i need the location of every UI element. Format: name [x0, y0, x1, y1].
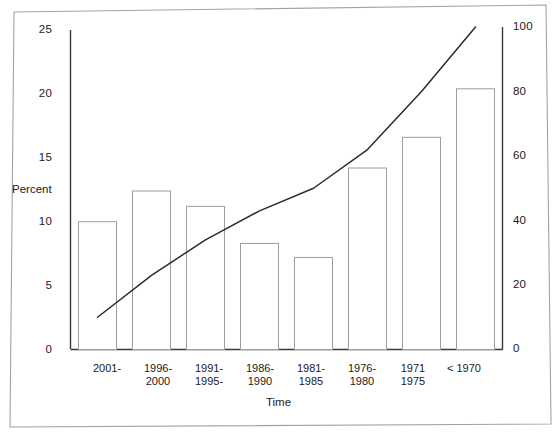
y-tick-right-20: 20: [513, 278, 526, 290]
y-tick-left-10: 10: [24, 215, 52, 227]
y-tick-left-20: 20: [24, 87, 52, 99]
y-tick-right-60: 60: [513, 149, 526, 161]
y-tick-left-25: 25: [24, 23, 52, 35]
y-axis-title: Percent: [12, 183, 52, 195]
bar-2001: [79, 222, 117, 350]
bar-1971-1975: [403, 137, 441, 349]
x-category-label: < 1970: [434, 362, 494, 375]
y-tick-left-5: 5: [24, 279, 52, 291]
bar-1986-1990: [241, 243, 279, 349]
y-tick-right-40: 40: [513, 214, 526, 226]
y-tick-right-100: 100: [513, 20, 533, 32]
x-category-line: 1975: [383, 375, 443, 388]
bar-pre-1970: [457, 89, 495, 350]
bar-1996-2000: [133, 191, 171, 349]
y-tick-left-15: 15: [24, 151, 52, 163]
y-tick-right-0: 0: [513, 342, 520, 354]
bar-1991-1995: [187, 206, 225, 349]
bar-group: [79, 89, 495, 350]
y-tick-right-80: 80: [513, 85, 526, 97]
x-category-line: < 1970: [434, 362, 494, 375]
bar-1976-1980: [349, 168, 387, 349]
x-axis-title: Time: [0, 396, 557, 408]
bar-1981-1985: [295, 257, 333, 349]
y-tick-left-0: 0: [24, 343, 52, 355]
